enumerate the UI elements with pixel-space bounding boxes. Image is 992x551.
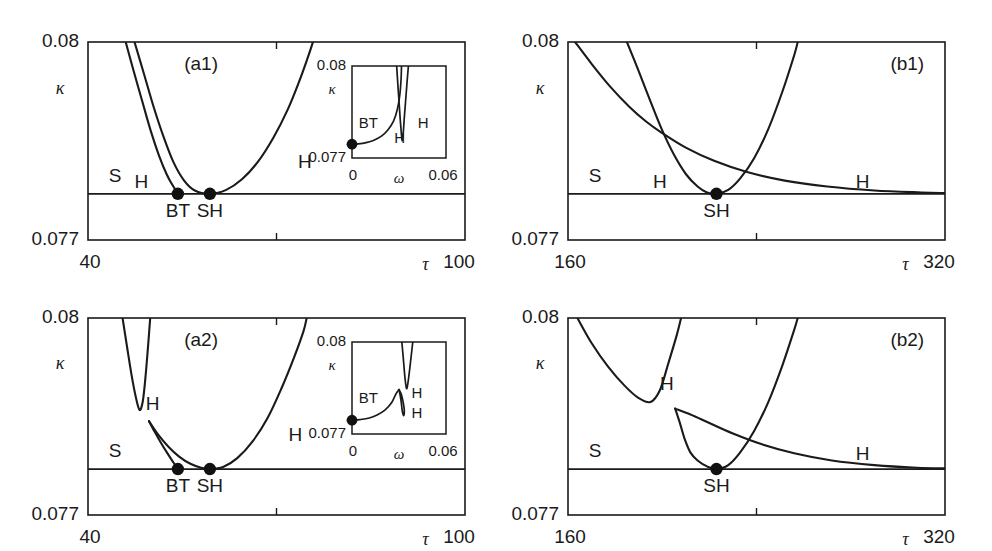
hopf-curve bbox=[675, 409, 945, 469]
codim2-point-sh bbox=[710, 463, 722, 475]
x-axis-name: τ bbox=[902, 529, 909, 549]
xtick-label-max: 320 bbox=[923, 526, 955, 547]
hopf-curve-label-2: H bbox=[856, 443, 870, 464]
panel-id-label: (b2) bbox=[890, 329, 924, 350]
hopf-curve bbox=[675, 318, 798, 469]
ytick-label-min: 0.077 bbox=[511, 503, 559, 524]
xtick-label-min: 160 bbox=[554, 526, 586, 547]
codim2-label-sh: SH bbox=[703, 475, 729, 496]
axes-frame bbox=[568, 318, 945, 515]
figure-canvas: SBTSHHH0.080.07740100κτ(a1)BTHH0.080.077… bbox=[0, 0, 992, 551]
y-axis-name: κ bbox=[536, 353, 545, 373]
saddle-node-label: S bbox=[589, 440, 602, 461]
ytick-label-max: 0.08 bbox=[522, 306, 559, 327]
hopf-curve-label-1: H bbox=[660, 373, 674, 394]
plot-b2: SSHHH0.080.077160320κτ(b2) bbox=[0, 0, 992, 551]
